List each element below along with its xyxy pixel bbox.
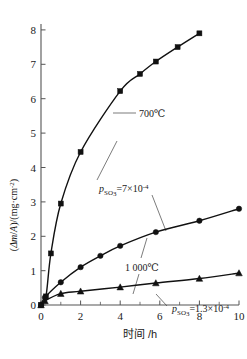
- y-tick-label: 7: [31, 58, 37, 70]
- leader-pso3-7-upper: [97, 141, 117, 180]
- leader-1000c-upper: [141, 238, 147, 258]
- data-point-circle: [78, 264, 83, 269]
- y-tick-label: 6: [31, 93, 37, 105]
- pso3-main: =7×10: [116, 183, 142, 194]
- series-line-700c: [41, 33, 199, 305]
- y-axis-title: (Δm/A)/(mg·cm-2): [8, 179, 20, 251]
- x-tick-label: 4: [117, 310, 123, 322]
- annotation-leader-lines: [97, 113, 167, 306]
- pso3b-main: =1.3×10: [189, 303, 223, 314]
- y-tick-label: 8: [31, 24, 37, 36]
- data-point-circle: [98, 253, 103, 258]
- data-point-circle: [153, 229, 158, 234]
- x-tick-label: 10: [234, 310, 246, 322]
- x-tick-label: 6: [157, 310, 163, 322]
- y-tick-label: 1: [31, 265, 37, 277]
- data-point-circle: [58, 280, 63, 285]
- y-axis-tick-labels: 8 7 6 5 4 3 2 1 0: [31, 24, 37, 311]
- x-tick-label: 0: [38, 310, 44, 322]
- data-point-circle: [197, 218, 202, 223]
- data-point-square: [138, 71, 143, 76]
- data-point-square: [58, 201, 63, 206]
- chart-figure: 8 7 6 5 4 3 2 1 0 0 2 4: [0, 0, 247, 359]
- y-tick-label: 4: [31, 162, 37, 174]
- y-axis-ticks: [41, 30, 46, 305]
- oxidation-kinetics-chart: 8 7 6 5 4 3 2 1 0 0 2 4: [0, 0, 247, 359]
- data-point-square: [153, 59, 158, 64]
- y-title-m: m: [8, 235, 19, 242]
- annotation-1000c: 1 000℃: [125, 262, 159, 273]
- x-tick-label: 2: [78, 310, 84, 322]
- leader-pso3-13: [156, 294, 167, 306]
- data-point-square: [118, 89, 123, 94]
- annotation-pso3-7e-4: pSO3=7×10-4: [98, 183, 149, 198]
- svg-text:(Δm/A)/(mg·cm-2): (Δm/A)/(mg·cm-2): [8, 179, 20, 251]
- series-line-1000c-low-pso3: [41, 273, 239, 305]
- series-markers-700c: [39, 31, 202, 308]
- series-line-1000c-high-pso3: [41, 209, 239, 305]
- pso3-sub: SO: [104, 189, 113, 197]
- data-point-square: [48, 251, 53, 256]
- data-point-square: [175, 45, 180, 50]
- y-title-unit: mg·cm: [8, 188, 19, 217]
- pso3b-sub: SO: [177, 309, 186, 317]
- leader-1000c-lower: [133, 274, 139, 294]
- data-point-circle: [236, 206, 241, 211]
- y-title-end: ): [8, 179, 20, 182]
- pso3-sup: -4: [143, 183, 149, 191]
- data-point-circle: [118, 243, 123, 248]
- x-axis-title: 时间 /h: [123, 328, 157, 340]
- y-tick-label: 5: [31, 127, 37, 139]
- y-tick-label: 2: [31, 230, 37, 242]
- leader-pso3-7-lower: [152, 195, 166, 231]
- y-tick-label: 0: [31, 299, 37, 311]
- pso3b-sup: -4: [223, 303, 229, 311]
- data-point-square: [78, 149, 83, 154]
- annotation-700c: 700℃: [139, 108, 165, 119]
- y-tick-label: 3: [31, 196, 37, 208]
- data-point-square: [197, 31, 202, 36]
